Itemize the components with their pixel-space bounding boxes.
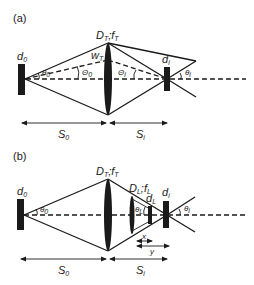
ray-upper-out-ext bbox=[167, 79, 196, 97]
panel-a: (a) d0 DT;fT wT θ0 Θ0 Θi di θi bbox=[13, 12, 246, 141]
x-label: x bbox=[141, 232, 147, 241]
lens-l bbox=[130, 196, 135, 234]
waist-label: wT bbox=[91, 49, 104, 62]
lens-t-label: DT;fT bbox=[96, 165, 119, 178]
arc-thetaL bbox=[144, 207, 145, 215]
theta0-small-label: θ0 bbox=[42, 68, 50, 78]
si-label: Si bbox=[136, 264, 145, 277]
detector-l bbox=[148, 206, 152, 224]
ray-lower-in bbox=[24, 215, 108, 251]
si-label: Si bbox=[136, 128, 145, 141]
theta0-label: θ0 bbox=[40, 205, 48, 215]
thetai-label: θi bbox=[185, 68, 191, 78]
ray-l-lower bbox=[132, 221, 150, 231]
object-detector bbox=[17, 199, 24, 230]
ray-upper-out-pre bbox=[108, 43, 196, 61]
thetaL-label: θL bbox=[135, 205, 143, 215]
Thetai-label: Θi bbox=[118, 68, 126, 78]
s0-label: S0 bbox=[58, 264, 69, 277]
ray-lower-out bbox=[108, 79, 167, 115]
waist-ray-out bbox=[108, 60, 167, 79]
ray-lower-in bbox=[25, 79, 108, 115]
lens-t-label: DT;fT bbox=[96, 29, 119, 42]
image-detector bbox=[163, 201, 169, 228]
object-label: d0 bbox=[17, 50, 27, 63]
arc-Theta0 bbox=[77, 66, 79, 79]
arc-thetai bbox=[180, 73, 181, 79]
s0-label: S0 bbox=[58, 128, 69, 141]
panel-label-b: (b) bbox=[13, 150, 26, 162]
arc-thetai bbox=[179, 209, 180, 215]
ray-lower-out-ext bbox=[167, 197, 195, 215]
y-label: y bbox=[149, 247, 155, 256]
arc-theta0-small bbox=[38, 73, 39, 79]
lens-t bbox=[104, 179, 112, 251]
thetai-label: θi bbox=[184, 204, 190, 214]
Theta0-label: Θ0 bbox=[82, 68, 92, 78]
panel-b: (b) d0 DT;fT DL;fL θ0 θL dL di θi x y bbox=[13, 150, 246, 277]
image-detector bbox=[164, 67, 170, 91]
detector-l-label: dL bbox=[146, 192, 156, 205]
object-label: d0 bbox=[17, 185, 27, 198]
panel-label-a: (a) bbox=[13, 12, 26, 24]
object-detector bbox=[18, 64, 25, 95]
image-label: di bbox=[162, 186, 170, 199]
lens-t bbox=[104, 43, 112, 115]
waist-ray-in bbox=[25, 60, 108, 79]
ray-upper-out-ext bbox=[167, 215, 195, 232]
arc-Thetai bbox=[134, 70, 136, 79]
optics-diagram: (a) d0 DT;fT wT θ0 Θ0 Θi di θi bbox=[0, 0, 254, 285]
